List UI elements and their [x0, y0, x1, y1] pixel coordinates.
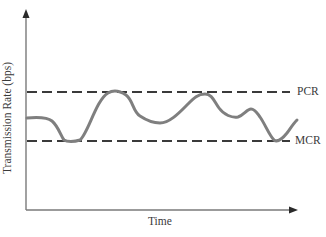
transmission-rate-curve [27, 91, 297, 141]
x-axis-arrow-icon [289, 207, 298, 214]
y-axis-label: Transmission Rate (bps) [2, 62, 14, 174]
mcr-label: MCR [295, 135, 321, 147]
chart-canvas [0, 0, 326, 237]
x-axis-label: Time [148, 216, 172, 228]
pcr-label: PCR [297, 86, 319, 98]
y-axis-arrow-icon [23, 9, 30, 18]
